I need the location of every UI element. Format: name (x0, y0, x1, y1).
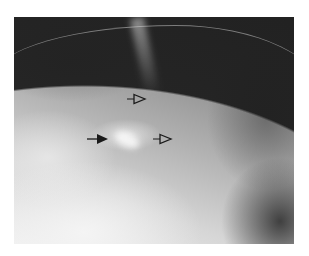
open-arrowhead-upper-icon (127, 93, 147, 105)
solid-arrow-icon (87, 133, 109, 145)
open-arrowhead-lower-icon (153, 133, 173, 145)
radiograph-image (14, 17, 294, 244)
